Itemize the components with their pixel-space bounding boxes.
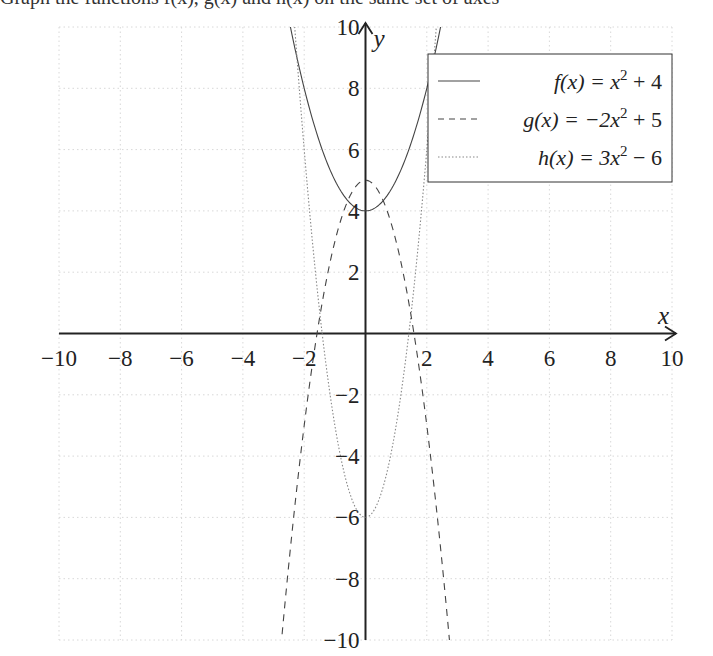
x-tick-label: 6 [544,346,556,371]
x-tick-label: −4 [231,346,256,371]
x-tick-label: −10 [41,346,77,371]
legend-entry: h(x) = 3x2 − 6 [538,143,662,170]
y-tick-label: −4 [335,444,360,469]
y-tick-label: 2 [348,260,360,285]
y-tick-label: 4 [348,199,360,224]
x-tick-label: 10 [661,346,684,371]
x-tick-label: 2 [421,346,433,371]
y-tick-label: −10 [324,628,360,653]
y-tick-label: 6 [348,138,360,163]
legend-entry: g(x) = −2x2 + 5 [523,105,662,132]
x-axis-label: x [657,302,669,329]
x-tick-label: −6 [169,346,193,371]
function-plot: xy −10−8−6−4−2246810−10−8−6−4−2246810 f(… [0,0,713,656]
legend: f(x) = x2 + 4g(x) = −2x2 + 5h(x) = 3x2 −… [428,54,672,182]
legend-entry: f(x) = x2 + 4 [554,67,662,94]
y-tick-label: −6 [335,505,359,530]
y-tick-label: 10 [337,15,360,40]
y-tick-label: 8 [348,76,360,101]
x-tick-label: −8 [108,346,132,371]
x-tick-label: 4 [482,346,494,371]
x-tick-label: 8 [605,346,617,371]
y-tick-label: −2 [335,383,359,408]
y-axis-label: y [371,25,386,52]
y-tick-label: −8 [335,567,359,592]
x-tick-label: −2 [292,346,316,371]
